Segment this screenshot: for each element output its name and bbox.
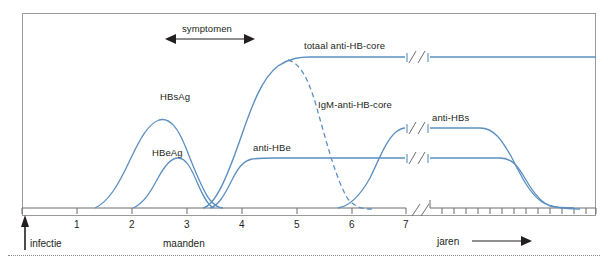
label-symptomen: symptomen	[182, 24, 232, 34]
x-tick-label-6: 6	[349, 219, 355, 230]
curve-igm-anti-hb-core	[288, 60, 372, 209]
x-tick-label-4: 4	[239, 219, 245, 230]
label-infectie: infectie	[30, 238, 62, 249]
x-axis-months	[22, 208, 406, 214]
x-tick-label-1: 1	[74, 219, 80, 230]
label-anti-hbs: anti-HBs	[432, 113, 469, 123]
axis-break-anti-hbs-icon	[409, 122, 425, 134]
axis-break-anti-hbe-icon	[409, 152, 425, 164]
symptoms-arrow-icon	[165, 34, 255, 44]
years-arrow-icon	[472, 236, 532, 246]
x-axis-years	[430, 200, 596, 214]
curve-total-anti-hb-core	[203, 53, 596, 208]
x-tick-label-7: 7	[403, 219, 409, 230]
hepatitis-b-serology-figure: symptomen HBsAg HBeAg anti-HBe totaal an…	[0, 0, 608, 266]
label-anti-hbe: anti-HBe	[253, 143, 291, 153]
bottom-dotted-divider	[8, 255, 600, 256]
axis-break-core-icon	[409, 51, 425, 63]
curve-anti-hbs	[338, 124, 580, 209]
label-igm-anti-hb-core: IgM-anti-HB-core	[318, 100, 392, 110]
x-tick-label-5: 5	[294, 219, 300, 230]
label-hbsag: HBsAg	[160, 92, 190, 102]
x-tick-label-3: 3	[184, 219, 190, 230]
label-jaren: jaren	[437, 236, 459, 247]
curve-anti-hbe	[210, 154, 574, 208]
x-tick-label-2: 2	[129, 219, 135, 230]
curve-hbsag	[95, 120, 223, 208]
axis-break-baseline-icon	[412, 204, 429, 216]
infection-arrow-icon	[21, 215, 29, 250]
label-totaal-anti-hb-core: totaal anti-HB-core	[304, 41, 385, 51]
label-maanden: maanden	[163, 238, 205, 249]
label-hbeag: HBeAg	[152, 148, 183, 158]
curve-hbeag	[133, 158, 214, 208]
